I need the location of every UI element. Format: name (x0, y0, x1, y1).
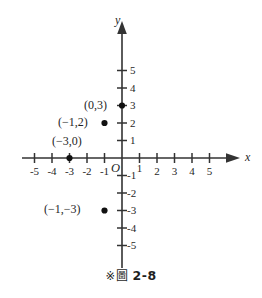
plot-area: -5 -4 -3 -2 -1 1 2 3 4 5 5 4 3 2 1 -1 -2… (0, 0, 262, 268)
y-tick-label--2: -2 (127, 188, 136, 199)
point-marker-neg1-2 (101, 120, 107, 126)
point-label-neg1-neg3: (−1,−3) (44, 203, 81, 215)
y-tick-label--3: -3 (127, 205, 136, 216)
y-tick-label-2: 2 (130, 118, 136, 129)
point-marker-0-3 (119, 102, 125, 108)
point-marker-neg1-neg3 (101, 207, 107, 213)
x-axis-name: x (245, 151, 250, 163)
y-tick-label-5: 5 (130, 65, 136, 76)
point-label-0-3: (0,3) (84, 99, 107, 111)
y-axis-name: y (115, 14, 120, 26)
y-tick-label-1: 1 (130, 135, 136, 146)
x-tick-label--3: -3 (62, 166, 77, 177)
figure-caption: ※圖 2-8 (0, 266, 262, 283)
caption-number: 2-8 (133, 268, 157, 283)
caption-reference-mark-icon: ※ (105, 269, 115, 283)
y-tick-label--4: -4 (127, 223, 136, 234)
x-tick-label-3: 3 (168, 166, 181, 177)
point-label-neg1-2: (−1,2) (58, 116, 88, 128)
y-tick-label--1: -1 (127, 170, 136, 181)
x-tick-label--1: -1 (97, 166, 112, 177)
caption-cjk-character: 圖 (116, 269, 129, 283)
x-tick-label-4: 4 (186, 166, 199, 177)
x-tick-label--2: -2 (80, 166, 95, 177)
x-tick-label-5: 5 (203, 166, 216, 177)
y-tick-label-3: 3 (130, 100, 136, 111)
point-label-neg3-0: (−3,0) (52, 135, 82, 147)
point-marker-neg3-0 (66, 155, 72, 161)
x-axis-arrowhead (226, 153, 240, 163)
y-tick-label-4: 4 (130, 83, 136, 94)
x-tick-label--4: -4 (45, 166, 60, 177)
x-tick-label-2: 2 (151, 166, 164, 177)
coordinate-plane-figure: -5 -4 -3 -2 -1 1 2 3 4 5 5 4 3 2 1 -1 -2… (0, 0, 262, 298)
x-tick-label--5: -5 (27, 166, 42, 177)
origin-label: O (111, 162, 120, 175)
y-tick-label--5: -5 (127, 240, 136, 251)
